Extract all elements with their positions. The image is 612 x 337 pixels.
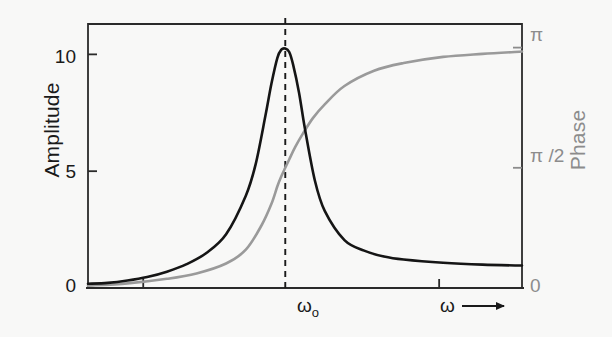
right-arrow-icon (462, 305, 504, 307)
omega-zero-subscript: o (312, 305, 319, 320)
y-left-tick-label-0: 0 (38, 275, 76, 297)
y-left-tick-label-10: 10 (38, 46, 76, 68)
y-right-tick-label-pi-half: π /2 (530, 145, 564, 167)
phase-axis-title: Phase (566, 80, 590, 200)
omega-symbol: ω (440, 295, 455, 317)
chart-plot-area (0, 0, 612, 337)
y-right-tick-label-zero: 0 (530, 275, 541, 297)
x-axis-omega-label: ω (440, 295, 504, 317)
omega-zero-label: ωo (297, 295, 319, 320)
y-right-tick-label-pi: π (530, 24, 543, 46)
resonance-chart-figure: Amplitude Phase 10 5 0 π π /2 0 ωo ω (0, 0, 612, 337)
omega-zero-symbol: ω (297, 295, 312, 316)
y-left-tick-label-5: 5 (38, 161, 76, 183)
